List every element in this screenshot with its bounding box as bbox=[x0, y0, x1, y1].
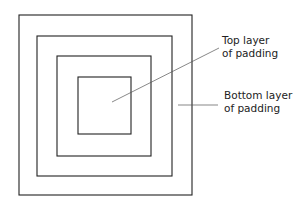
third-square bbox=[57, 56, 151, 156]
top-layer-label-line1: Top layer bbox=[221, 34, 270, 46]
outer-square bbox=[19, 15, 192, 195]
bottom-layer-label-line2: of padding bbox=[224, 102, 280, 114]
padding-layers-diagram: Top layer of padding Bottom layer of pad… bbox=[0, 0, 293, 205]
bottom-layer-label-line1: Bottom layer bbox=[224, 89, 293, 101]
inner-square bbox=[78, 77, 131, 134]
top-layer-label-line2: of padding bbox=[222, 47, 278, 59]
